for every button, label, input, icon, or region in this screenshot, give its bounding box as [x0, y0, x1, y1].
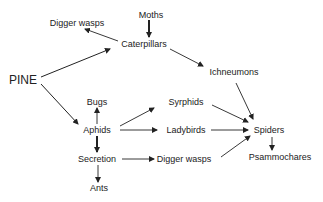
edge-caterpillars-ichneumons — [170, 49, 203, 66]
edge-syrphids-spiders — [212, 105, 248, 122]
edges-layer — [0, 0, 323, 202]
edge-digger-wasps-spiders — [221, 136, 250, 157]
node-caterpillars: Caterpillars — [121, 39, 167, 49]
node-pine: PINE — [9, 74, 37, 87]
food-web-diagram: Moths Digger wasps Caterpillars PINE Ich… — [0, 0, 323, 202]
edge-ichneumons-spiders — [236, 83, 253, 119]
node-ants: Ants — [90, 183, 108, 193]
node-digger-wasps-bottom: Digger wasps — [157, 154, 212, 164]
edge-aphids-syrphids — [120, 108, 154, 126]
edge-caterpillars-digger-wasps — [85, 29, 118, 41]
node-ladybirds: Ladybirds — [166, 125, 205, 135]
node-psammochares: Psammochares — [249, 152, 312, 162]
edge-pine-aphids — [41, 84, 78, 124]
node-spiders: Spiders — [254, 125, 285, 135]
node-bugs: Bugs — [87, 97, 108, 107]
node-ichneumons: Ichneumons — [209, 67, 258, 77]
edge-pine-caterpillars — [41, 49, 110, 77]
node-syrphids: Syrphids — [168, 97, 203, 107]
node-moths: Moths — [139, 10, 164, 20]
node-aphids: Aphids — [83, 125, 111, 135]
node-secretion: Secretion — [78, 154, 116, 164]
node-digger-wasps-top: Digger wasps — [50, 18, 105, 28]
